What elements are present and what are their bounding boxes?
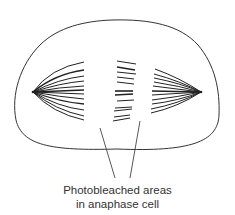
right-spindle-pole [200, 91, 203, 94]
caption-line-1: Photobleached areas [0, 183, 235, 197]
caption-line-2: in anaphase cell [0, 197, 235, 211]
right-half-spindle-fibers [151, 69, 201, 113]
left-spindle-pole [32, 91, 35, 94]
middle-fiber-fragments [113, 61, 136, 121]
left-half-spindle-fibers [33, 62, 84, 120]
